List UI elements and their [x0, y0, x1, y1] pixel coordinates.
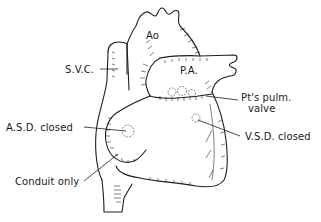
label-conduit: Conduit only	[15, 176, 79, 187]
conduit-suture	[150, 94, 212, 101]
label-svc: S.V.C.	[65, 64, 94, 75]
label-pulm-valve-1: Pt's pulm.	[241, 92, 291, 103]
vsd-leader	[198, 120, 240, 136]
label-pulm-valve-2: valve	[248, 103, 275, 114]
label-vsd: V.S.D. closed	[245, 131, 311, 142]
aorta	[127, 8, 200, 90]
pulm-valve-leader	[206, 96, 238, 100]
ventricles	[116, 92, 227, 187]
label-asd: A.S.D. closed	[6, 122, 73, 133]
ivc-stump	[102, 180, 132, 212]
label-aorta: Ao	[146, 30, 159, 41]
pulm-valve-marks	[168, 87, 196, 97]
asd-leader	[84, 127, 126, 131]
heart-diagram: Ao S.V.C. P.A. Pt's pulm. valve A.S.D. c…	[0, 0, 321, 222]
label-pa: P.A.	[180, 65, 198, 76]
